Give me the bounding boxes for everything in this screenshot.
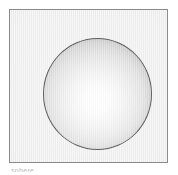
- sphere-halftone-texture: [44, 39, 151, 149]
- sphere-panel: [9, 9, 168, 163]
- sphere-terminator-shading: [44, 39, 151, 149]
- shaded-sphere: [43, 38, 152, 150]
- cropped-caption-text: sphere: [11, 168, 45, 172]
- figure-root: sphere: [0, 0, 178, 175]
- cropped-caption: sphere: [11, 168, 45, 172]
